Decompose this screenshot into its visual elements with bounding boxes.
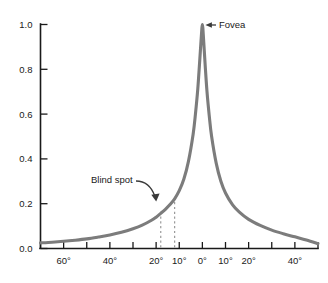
x-tick-label: 10° bbox=[172, 255, 187, 266]
x-tick-label: 40° bbox=[288, 255, 303, 266]
blind-spot-arrow-icon bbox=[136, 181, 155, 197]
fovea-label: Fovea bbox=[219, 19, 246, 30]
x-tick-label: 60° bbox=[56, 255, 71, 266]
x-tick-label: 20° bbox=[149, 255, 164, 266]
acuity-chart-figure: 1.00.80.60.40.20.0 60°40°20°10°0°10°20°4… bbox=[0, 0, 328, 283]
x-tick-group bbox=[41, 242, 319, 249]
x-tick-label-group: 60°40°20°10°0°10°20°40° bbox=[56, 255, 302, 266]
y-tick-label: 0.8 bbox=[19, 64, 32, 75]
y-tick-label: 0.2 bbox=[19, 198, 32, 209]
x-tick-label: 0° bbox=[198, 255, 207, 266]
blind-spot-label: Blind spot bbox=[91, 174, 133, 185]
fovea-annotation: Fovea bbox=[205, 19, 246, 30]
y-tick-label: 0.0 bbox=[19, 243, 32, 254]
blind-spot-annotation: Blind spot bbox=[91, 174, 160, 202]
acuity-curve bbox=[41, 25, 319, 244]
chart-plot-area: 1.00.80.60.40.20.0 60°40°20°10°0°10°20°4… bbox=[0, 0, 328, 283]
y-tick-group bbox=[41, 25, 48, 249]
x-tick-label: 10° bbox=[218, 255, 233, 266]
y-tick-label: 0.6 bbox=[19, 109, 32, 120]
blind-spot-arrowhead-icon bbox=[151, 194, 159, 202]
x-tick-label: 40° bbox=[103, 255, 118, 266]
y-tick-label: 0.4 bbox=[19, 153, 32, 164]
x-tick-label: 20° bbox=[241, 255, 256, 266]
y-tick-label-group: 1.00.80.60.40.20.0 bbox=[19, 19, 32, 254]
fovea-arrowhead-icon bbox=[205, 22, 212, 28]
y-tick-label: 1.0 bbox=[19, 19, 32, 30]
